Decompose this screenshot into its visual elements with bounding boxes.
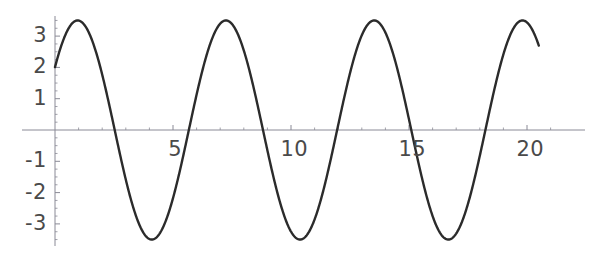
- y-tick-label: 3: [7, 25, 47, 46]
- y-tick-label: -1: [7, 150, 47, 171]
- y-tick-label: 1: [7, 88, 47, 109]
- plot-svg: [0, 0, 607, 257]
- x-tick-label: 20: [517, 139, 545, 160]
- x-axis-ticks: [79, 125, 551, 130]
- x-tick-label: 10: [281, 139, 309, 160]
- axes-group: [22, 16, 585, 246]
- y-tick-label: -3: [7, 213, 47, 234]
- x-tick-label: 15: [399, 139, 427, 160]
- y-tick-label: -2: [7, 182, 47, 203]
- plot-canvas: 5101520 321-1-2-3: [0, 0, 607, 257]
- x-tick-label: 5: [168, 139, 182, 160]
- y-tick-label: 2: [7, 56, 47, 77]
